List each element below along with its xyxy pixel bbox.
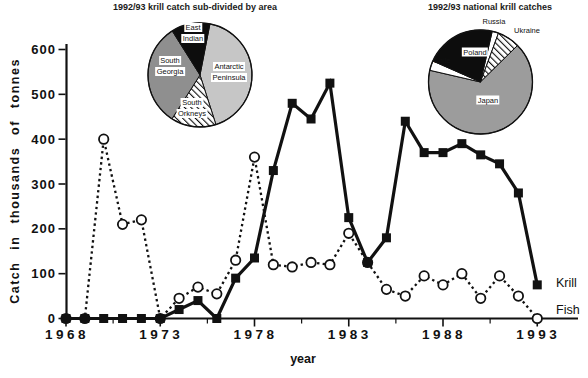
y-tick-label: 0	[48, 311, 56, 326]
y-tick-label: 600	[31, 42, 56, 57]
pie-slice-label-poland: Poland	[462, 47, 488, 58]
krill-marker	[476, 150, 485, 159]
pie-slice-label-russia: Russia	[483, 16, 506, 27]
fish-marker	[288, 262, 297, 271]
krill-marker	[175, 305, 184, 314]
pie1-title: 1992/93 krill catch sub-divided by area	[113, 2, 277, 12]
pie-slice-label-chile: Chile	[433, 55, 450, 66]
krill-marker	[137, 314, 146, 323]
x-tick-label: 1968	[45, 327, 89, 342]
krill-marker	[288, 99, 297, 108]
pie-slice-label-ukraine: Ukraine	[514, 25, 540, 36]
krill-marker	[231, 274, 240, 283]
krill-marker	[307, 114, 316, 123]
pie-slice-label-south-georgia: SouthGeorgia	[155, 55, 185, 77]
krill-marker	[193, 296, 202, 305]
y-tick-label: 200	[31, 221, 56, 236]
fish-marker	[250, 152, 259, 161]
fish-marker	[325, 260, 334, 269]
pie-slice-label-antarctic-peninsula: AntarcticPeninsula	[211, 61, 247, 83]
pie-slice-label-east-indian: EastIndian	[181, 22, 204, 44]
krill-fish-catch-figure: 0100200300400500600196819731978198319881…	[0, 0, 588, 378]
y-tick-label: 500	[31, 87, 56, 102]
krill-marker	[495, 159, 504, 168]
y-axis-title: Catch in thousands of tonnes	[8, 58, 22, 304]
krill-marker	[439, 148, 448, 157]
fish-marker	[382, 285, 391, 294]
fish-marker	[174, 294, 183, 303]
fish-marker	[99, 134, 108, 143]
fish-marker	[438, 280, 447, 289]
y-tick-label: 100	[31, 266, 56, 281]
krill-marker	[62, 314, 71, 323]
x-tick-label: 1993	[516, 327, 560, 342]
fish-marker	[212, 289, 221, 298]
fish-marker	[118, 220, 127, 229]
krill-marker	[533, 280, 542, 289]
krill-marker	[344, 213, 353, 222]
x-tick-label: 1988	[422, 327, 466, 342]
krill-marker	[156, 314, 165, 323]
fish-marker	[193, 282, 202, 291]
fish-marker	[306, 258, 315, 267]
fish-marker	[269, 260, 278, 269]
fish-line	[66, 139, 537, 318]
fish-series-label: Fish	[556, 303, 580, 317]
krill-marker	[457, 139, 466, 148]
pie2-title: 1992/93 national krill catches	[428, 2, 552, 12]
krill-marker	[118, 314, 127, 323]
fish-marker	[137, 215, 146, 224]
x-tick-label: 1983	[328, 327, 372, 342]
fish-marker	[533, 314, 542, 323]
krill-marker	[420, 148, 429, 157]
y-tick-label: 400	[31, 132, 56, 147]
krill-marker	[250, 253, 259, 262]
figure-canvas: 0100200300400500600196819731978198319881…	[0, 0, 588, 378]
fish-marker	[457, 269, 466, 278]
x-axis-title: year	[290, 352, 316, 366]
fish-marker	[344, 229, 353, 238]
krill-marker	[363, 258, 372, 267]
fish-marker	[419, 271, 428, 280]
krill-marker	[269, 166, 278, 175]
y-tick-label: 300	[31, 177, 56, 192]
krill-marker	[212, 314, 221, 323]
x-tick-label: 1973	[139, 327, 183, 342]
krill-marker	[514, 188, 523, 197]
pie-slice-label-japan: Japan	[476, 95, 499, 106]
fish-marker	[476, 294, 485, 303]
x-tick-label: 1978	[233, 327, 277, 342]
fish-marker	[514, 291, 523, 300]
krill-marker	[325, 79, 334, 88]
pie-slice-label-south-orkneys: SouthOrkneys	[177, 97, 208, 119]
fish-marker	[401, 291, 410, 300]
krill-marker	[80, 314, 89, 323]
fish-marker	[495, 271, 504, 280]
krill-series-label: Krill	[556, 276, 577, 290]
krill-marker	[401, 117, 410, 126]
fish-marker	[231, 256, 240, 265]
krill-marker	[382, 233, 391, 242]
krill-marker	[99, 314, 108, 323]
